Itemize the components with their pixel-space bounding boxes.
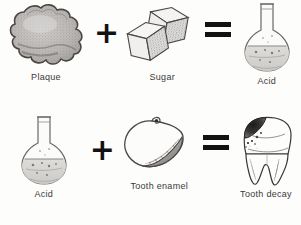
tooth-decay-diagram: Plaque +	[0, 0, 301, 225]
operator-equals-row1	[203, 0, 232, 37]
equals-icon	[203, 135, 229, 150]
plus-icon: +	[94, 18, 119, 48]
term-acid-row1: Acid	[232, 0, 301, 87]
equation-row-plaque-sugar-acid: Plaque +	[0, 0, 301, 112]
term-tooth-enamel: Tooth enamel	[117, 113, 201, 192]
equals-icon	[205, 22, 231, 37]
flask-icon	[16, 113, 72, 189]
equation-row-acid-enamel-decay: Acid +	[0, 113, 301, 225]
tooth-enamel-icon	[119, 113, 199, 181]
operator-equals-row2	[201, 113, 231, 150]
caption-acid-row2: Acid	[34, 189, 53, 200]
caption-plaque: Plaque	[31, 72, 61, 83]
sugar-cubes-icon	[124, 0, 200, 72]
caption-acid-row1: Acid	[257, 76, 276, 87]
term-plaque: Plaque	[0, 0, 92, 83]
flask-icon	[239, 0, 295, 76]
plaque-blob-icon	[0, 0, 92, 72]
term-tooth-decay: Tooth decay	[231, 113, 301, 200]
plus-icon: +	[90, 135, 115, 165]
caption-tooth-enamel: Tooth enamel	[130, 181, 188, 192]
decayed-tooth-icon	[233, 113, 299, 189]
term-acid-row2: Acid	[0, 113, 88, 200]
operator-plus-row1: +	[92, 0, 121, 48]
operator-plus-row2: +	[88, 113, 118, 165]
caption-sugar: Sugar	[149, 72, 175, 83]
term-sugar: Sugar	[121, 0, 203, 83]
caption-tooth-decay: Tooth decay	[240, 189, 292, 200]
